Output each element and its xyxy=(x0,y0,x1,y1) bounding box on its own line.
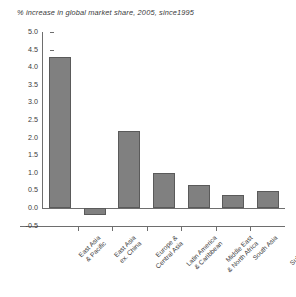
y-tick-label: 3.0 xyxy=(16,98,38,105)
bar xyxy=(118,131,140,208)
y-tick-mark xyxy=(50,226,54,227)
category-axis-line xyxy=(20,226,285,227)
category-label-line: Sub-Saharan xyxy=(288,234,296,266)
y-tick-label: 2.0 xyxy=(16,134,38,141)
y-tick-label: 0.0 xyxy=(16,204,38,211)
bar xyxy=(222,195,244,208)
category-tick-mark xyxy=(147,226,148,231)
category-tick-mark xyxy=(78,226,79,231)
y-tick-label: -0.5 xyxy=(16,222,38,229)
category-label: East Asiaex. China xyxy=(112,234,143,265)
y-axis-line xyxy=(42,32,43,208)
y-tick-label: 4.5 xyxy=(16,46,38,53)
bar xyxy=(257,191,279,208)
category-tick-mark xyxy=(181,226,182,231)
y-tick-label: 0.5 xyxy=(16,186,38,193)
y-tick-label: 4.0 xyxy=(16,63,38,70)
category-tick-mark xyxy=(112,226,113,231)
y-tick-mark xyxy=(50,208,54,209)
y-tick-mark xyxy=(50,32,54,33)
category-label: Latin America& Caribbean xyxy=(185,234,224,273)
bar xyxy=(84,208,106,215)
y-axis-ticks: 5.04.54.03.53.02.52.01.51.00.50.0-0.5 xyxy=(12,0,38,297)
y-tick-label: 5.0 xyxy=(16,28,38,35)
bar xyxy=(188,185,210,208)
category-label: Sub-SaharanAfrica xyxy=(288,234,296,272)
y-tick-label: 1.5 xyxy=(16,151,38,158)
y-tick-mark xyxy=(50,50,54,51)
category-tick-mark xyxy=(216,226,217,231)
chart-container: % increase in global market share, 2005,… xyxy=(0,0,296,297)
y-tick-label: 3.5 xyxy=(16,81,38,88)
y-tick-label: 1.0 xyxy=(16,169,38,176)
zero-baseline xyxy=(42,208,285,209)
category-label: Europe &Central Asia xyxy=(149,234,185,270)
category-tick-mark xyxy=(250,226,251,231)
bar xyxy=(153,173,175,208)
y-tick-label: 2.5 xyxy=(16,116,38,123)
bar xyxy=(49,57,71,208)
plot-area: 5.04.54.03.53.02.52.01.51.00.50.0-0.5 Ea… xyxy=(0,0,296,297)
category-label: East Asia& Pacific xyxy=(77,234,107,264)
